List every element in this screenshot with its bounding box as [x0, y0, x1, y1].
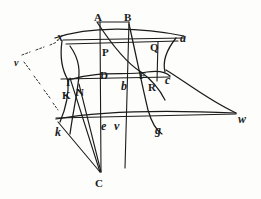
point-label-P: P	[102, 47, 109, 58]
stroke-layer	[22, 22, 236, 172]
stroke-curve-c-w	[166, 70, 236, 113]
stroke-dash-v-k	[24, 62, 58, 110]
point-label-N: N	[76, 87, 84, 98]
point-label-F: F	[139, 70, 146, 81]
point-label-R: R	[148, 82, 156, 93]
stroke-ray-k-C	[58, 122, 100, 172]
point-label-x: x	[57, 31, 63, 43]
point-label-K: K	[62, 90, 71, 101]
point-label-B: B	[124, 12, 131, 23]
point-label-D: D	[100, 70, 108, 81]
point-label-e: e	[101, 120, 106, 132]
figure-canvas	[0, 0, 261, 199]
point-label-c: c	[165, 74, 170, 86]
stroke-curve-I-left	[61, 41, 68, 80]
point-label-v1: v	[14, 58, 18, 68]
point-label-C: C	[95, 178, 103, 189]
point-label-Q: Q	[150, 42, 159, 53]
stroke-dash-v-x	[22, 42, 57, 55]
stroke-curve-x-a	[55, 29, 184, 38]
stroke-upper-horiz-xa	[63, 38, 184, 40]
point-label-a: a	[180, 32, 186, 44]
stroke-curve-c-hook	[164, 38, 176, 72]
point-label-k: k	[55, 126, 61, 138]
stroke-ray-I-C	[70, 78, 100, 172]
point-label-b: b	[121, 80, 127, 92]
point-label-g: g	[155, 124, 161, 136]
point-label-v2: v	[114, 120, 119, 132]
stroke-right-vert-B-C	[125, 22, 129, 168]
point-label-I: I	[66, 77, 70, 88]
stroke-upper-horiz-P	[66, 41, 178, 44]
point-label-w: w	[238, 113, 246, 125]
point-label-A: A	[94, 12, 102, 23]
geometric-figure: ABxaQPvDFcIbRNKwevgkC	[0, 0, 261, 199]
stroke-left-vert-A-C	[100, 22, 101, 172]
